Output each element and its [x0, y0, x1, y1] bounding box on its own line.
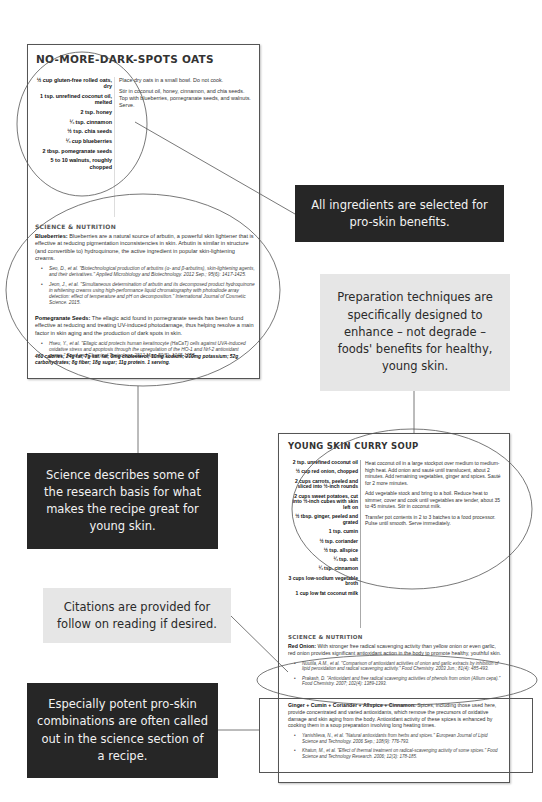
ingredient-list: 2 tsp. unrefined coconut oil ½ cup red o…	[285, 460, 358, 600]
recipe-title: YOUNG SKIN CURRY SOUP	[288, 441, 419, 451]
science-item-red-onion: Red Onion: With stronger free radical sc…	[288, 643, 504, 657]
combination-highlight-box	[259, 698, 533, 773]
science-heading: SCIENCE & NUTRITION	[35, 223, 116, 230]
science-heading: SCIENCE & NUTRITION	[288, 634, 363, 640]
callout-citations: Citations are provided for follow on rea…	[43, 588, 231, 643]
citation: Jeon, J., et al. "Simultaneous determina…	[35, 282, 255, 306]
ingredient: 5 to 10 walnuts, roughly chopped	[34, 157, 112, 169]
direction-step: Place dry oats in a small bowl. Do not c…	[119, 77, 254, 84]
ingredient: ½ tsp. allspice	[285, 548, 358, 554]
callout-preparation: Preparation techniques are specifically …	[320, 274, 510, 391]
ingredient: ¼ tsp. salt	[285, 557, 358, 563]
ingredient: ½ cup gluten-free rolled oats, dry	[34, 77, 112, 89]
ingredient: 1 cup low fat coconut milk	[285, 591, 358, 597]
ingredient: 3 cups low-sodium vegetable broth	[285, 576, 358, 588]
science-section: Red Onion: With stronger free radical sc…	[288, 643, 504, 687]
science-item-pomegranate: Pomegranate Seeds: The ellagic acid foun…	[35, 315, 255, 337]
citation: Prakash, D. "Antioxidant and free radica…	[288, 676, 504, 687]
ingredient: 2 cups carrots, peeled and sliced into ½…	[285, 479, 358, 491]
ingredient: 2 cups sweet potatoes, cut into ½-inch c…	[285, 494, 358, 511]
callout-combinations: Especially potent pro-skin combinations …	[27, 683, 218, 778]
ingredient: 2 tsp. honey	[34, 109, 112, 115]
recipe-card-oats: NO-MORE-DARK-SPOTS OATS ½ cup gluten-fre…	[27, 44, 260, 379]
ingredient: ½ tsp. coriander	[285, 539, 358, 545]
ingredient: ½ tsp. chia seeds	[34, 128, 112, 134]
direction-step: Add vegetable stock and bring to a boil.…	[365, 490, 502, 510]
ingredient: ½ cup red onion, chopped	[285, 469, 358, 475]
ingredient: ¼ tsp. cinnamon	[34, 119, 112, 125]
citation: Seo, D., et al. "Biotechnological produc…	[35, 266, 255, 278]
ingredient: ¼ tsp. cinnamon	[285, 566, 358, 572]
science-item-blueberries: Blueberries: Blueberries are a natural s…	[35, 233, 255, 262]
callout-ingredients: All ingredients are selected for pro-ski…	[295, 185, 504, 242]
ingredient: ¼ cup blueberries	[34, 138, 112, 144]
ingredient: 1 tsp. cumin	[285, 529, 358, 535]
directions: Place dry oats in a small bowl. Do not c…	[114, 77, 254, 217]
direction-step: Stir in coconut oil, honey, cinnamon, an…	[119, 88, 254, 109]
ingredient: 2 tbsp. pomegranate seeds	[34, 148, 112, 154]
direction-step: Transfer pot contents in 2 to 3 batches …	[365, 514, 502, 527]
nutrition-facts: 460 calories; 24g fat; 7g sat. fat; 0mg …	[35, 354, 257, 366]
ingredient-list: ½ cup gluten-free rolled oats, dry 1 tsp…	[34, 77, 112, 173]
science-section: Blueberries: Blueberries are a natural s…	[35, 233, 255, 359]
direction-step: Heat coconut oil in a large stockpot ove…	[365, 460, 502, 486]
directions: Heat coconut oil in a large stockpot ove…	[360, 460, 502, 628]
ingredient: 2 tsp. unrefined coconut oil	[285, 460, 358, 466]
callout-science: Science describes some of the research b…	[27, 453, 218, 549]
ingredient: ½ tbsp. ginger, peeled and grated	[285, 514, 358, 526]
recipe-title: NO-MORE-DARK-SPOTS OATS	[36, 53, 214, 65]
citation: Nuutila, A.M., et al. "Comparison of ant…	[288, 661, 504, 672]
ingredient: 1 tsp. unrefined coconut oil, melted	[34, 93, 112, 105]
